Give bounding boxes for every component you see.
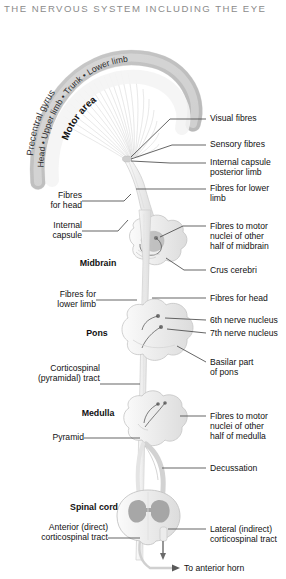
region-label-pons: Pons bbox=[62, 328, 132, 338]
anterior-tract-path bbox=[139, 541, 176, 568]
pons-section bbox=[122, 299, 193, 360]
region-label-midbrain: Midbrain bbox=[58, 258, 138, 268]
diagram-root: THE NERVOUS SYSTEM INCLUDING THE EYE bbox=[0, 0, 286, 579]
grey-matter-right bbox=[151, 500, 170, 523]
label-fibres-for-lower-limb-left: Fibres for lower limb bbox=[18, 289, 96, 309]
label-anterior-corticospinal-tract: Anterior (direct) corticospinal tract bbox=[6, 522, 108, 542]
label-decussation: Decussation bbox=[210, 463, 286, 473]
internal-capsule-node bbox=[123, 156, 132, 162]
leader-sensory-fibres bbox=[131, 145, 206, 159]
label-internal-capsule-posterior-limb: Internal capsule posterior limb bbox=[210, 157, 286, 177]
lateral-tract-stub bbox=[160, 527, 167, 541]
label-internal-capsule: Internal capsule bbox=[6, 220, 82, 240]
label-fibres-for-head-right: Fibres for head bbox=[210, 293, 286, 303]
pons-group bbox=[122, 299, 193, 360]
label-lateral-corticospinal-tract: Lateral (indirect) corticospinal tract bbox=[210, 524, 286, 544]
lateral-tract-arrow-head bbox=[160, 553, 166, 560]
leader-basilar-pons bbox=[177, 346, 206, 362]
region-label-medulla: Medulla bbox=[58, 408, 138, 418]
label-pyramid: Pyramid bbox=[10, 432, 84, 442]
leader-fibres-head-left bbox=[82, 194, 131, 201]
label-fibres-for-lower-limb-right: Fibres for lower limb bbox=[210, 183, 286, 203]
label-crus-cerebri: Crus cerebri bbox=[210, 265, 286, 275]
label-visual-fibres: Visual fibres bbox=[210, 113, 286, 123]
anterior-horn-arrow-head bbox=[172, 565, 180, 572]
label-sensory-fibres: Sensory fibres bbox=[210, 139, 286, 149]
label-sixth-nerve-nucleus: 6th nerve nucleus bbox=[210, 315, 286, 325]
grey-commissure bbox=[146, 508, 151, 512]
motor-cortex-group: Precentral gyrus Head • Upper limb • Tru… bbox=[24, 50, 201, 186]
midbrain-group bbox=[130, 215, 187, 265]
label-fibres-for-head-left: Fibres for head bbox=[6, 190, 82, 210]
region-label-spinal-cord: Spinal cord bbox=[48, 502, 140, 512]
label-fibres-to-motor-nuclei-medulla: Fibres to motor nuclei of other half of … bbox=[210, 411, 286, 442]
label-corticospinal-pyramidal-tract: Corticospinal (pyramidal) tract bbox=[10, 363, 100, 383]
label-seventh-nerve-nucleus: 7th nerve nucleus bbox=[210, 328, 286, 338]
label-to-anterior-horn: To anterior horn bbox=[184, 563, 284, 573]
leader-internal-capsule-posterior bbox=[131, 161, 206, 163]
label-fibres-to-motor-nuclei-midbrain: Fibres to motor nuclei of other half of … bbox=[210, 221, 286, 252]
leader-internal-capsule-left bbox=[82, 220, 128, 231]
spinal-cord-section bbox=[117, 490, 180, 545]
label-basilar-part-of-pons: Basilar part of pons bbox=[210, 357, 286, 377]
